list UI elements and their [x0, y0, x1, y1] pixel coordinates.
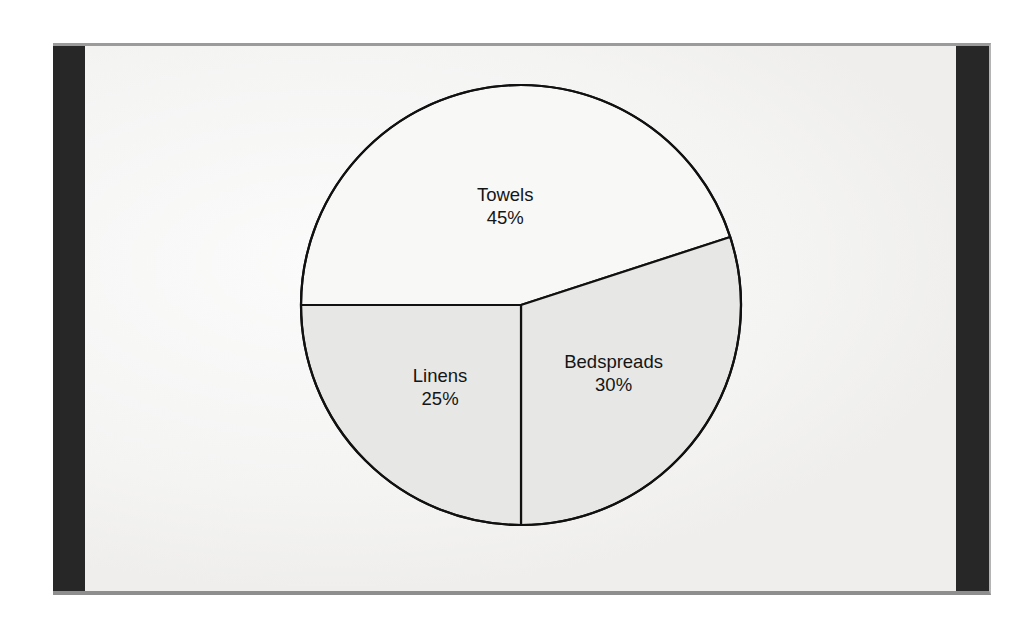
pie-slice-group [301, 85, 741, 525]
pie-slice-value: 45% [486, 207, 523, 228]
scan-gutter-left [53, 46, 85, 591]
pie-chart: Towels45%Bedspreads30%Linens25% [85, 46, 956, 591]
scan-gutter-right [956, 46, 989, 591]
pie-slice-name: Bedspreads [564, 351, 663, 372]
pie-slice-value: 30% [595, 374, 632, 395]
pie-chart-svg: Towels45%Bedspreads30%Linens25% [298, 82, 744, 528]
chart-area: Pavele's Linens Income from Sales Towels… [85, 46, 956, 591]
pie-slice-name: Linens [412, 365, 467, 386]
scanned-page: Pavele's Linens Income from Sales Towels… [53, 43, 991, 595]
pie-slice-linens [301, 305, 521, 525]
pie-slice-value: 25% [421, 388, 458, 409]
pie-slice-name: Towels [476, 184, 533, 205]
